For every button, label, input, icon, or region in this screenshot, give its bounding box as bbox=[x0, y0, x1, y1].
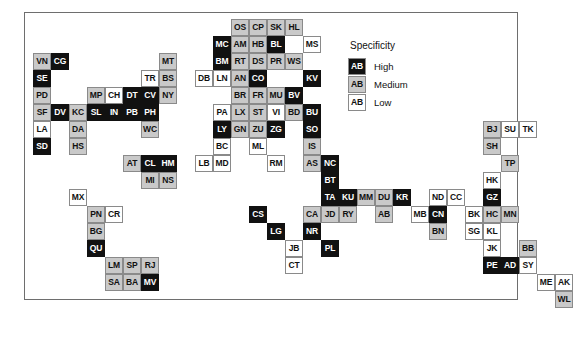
tile-ns[interactable]: NS bbox=[159, 172, 177, 189]
tile-mv[interactable]: MV bbox=[141, 274, 159, 291]
tile-db[interactable]: DB bbox=[195, 70, 213, 87]
tile-rm[interactable]: RM bbox=[267, 155, 285, 172]
tile-ln[interactable]: LN bbox=[213, 70, 231, 87]
tile-ly[interactable]: LY bbox=[213, 121, 231, 138]
tile-cv[interactable]: CV bbox=[141, 87, 159, 104]
tile-pa[interactable]: PA bbox=[213, 104, 231, 121]
tile-pd[interactable]: PD bbox=[33, 87, 51, 104]
tile-ml[interactable]: ML bbox=[249, 138, 267, 155]
tile-pl[interactable]: PL bbox=[321, 240, 339, 257]
tile-sy[interactable]: SY bbox=[519, 257, 537, 274]
tile-sd[interactable]: SD bbox=[33, 138, 51, 155]
tile-tp[interactable]: TP bbox=[501, 155, 519, 172]
tile-cs[interactable]: CS bbox=[249, 206, 267, 223]
tile-bb[interactable]: BB bbox=[519, 240, 537, 257]
tile-sh[interactable]: SH bbox=[483, 138, 501, 155]
tile-pe[interactable]: PE bbox=[483, 257, 501, 274]
tile-bs[interactable]: BS bbox=[159, 70, 177, 87]
tile-jb[interactable]: JB bbox=[285, 240, 303, 257]
tile-bc[interactable]: BC bbox=[213, 138, 231, 155]
tile-se[interactable]: SE bbox=[33, 70, 51, 87]
tile-ct[interactable]: CT bbox=[285, 257, 303, 274]
tile-kc[interactable]: KC bbox=[69, 104, 87, 121]
tile-bn[interactable]: BN bbox=[429, 223, 447, 240]
tile-fr[interactable]: FR bbox=[249, 87, 267, 104]
tile-jk[interactable]: JK bbox=[483, 240, 501, 257]
tile-nr[interactable]: NR bbox=[303, 223, 321, 240]
tile-an[interactable]: AN bbox=[231, 70, 249, 87]
tile-sk[interactable]: SK bbox=[267, 19, 285, 36]
tile-cn[interactable]: CN bbox=[429, 206, 447, 223]
tile-bl[interactable]: BL bbox=[267, 36, 285, 53]
tile-mp[interactable]: MP bbox=[87, 87, 105, 104]
tile-gn[interactable]: GN bbox=[231, 121, 249, 138]
tile-qu[interactable]: QU bbox=[87, 240, 105, 257]
tile-me[interactable]: ME bbox=[537, 274, 555, 291]
tile-cc[interactable]: CC bbox=[447, 189, 465, 206]
tile-br[interactable]: BR bbox=[231, 87, 249, 104]
tile-ms[interactable]: MS bbox=[303, 36, 321, 53]
tile-md[interactable]: MD bbox=[213, 155, 231, 172]
tile-ch[interactable]: CH bbox=[105, 87, 123, 104]
tile-bm[interactable]: BM bbox=[213, 53, 231, 70]
tile-wl[interactable]: WL bbox=[555, 291, 573, 308]
tile-mb[interactable]: MB bbox=[411, 206, 429, 223]
tile-mc[interactable]: MC bbox=[213, 36, 231, 53]
tile-os[interactable]: OS bbox=[231, 19, 249, 36]
tile-wc[interactable]: WC bbox=[141, 121, 159, 138]
tile-vn[interactable]: VN bbox=[33, 53, 51, 70]
tile-sp[interactable]: SP bbox=[123, 257, 141, 274]
tile-st[interactable]: ST bbox=[249, 104, 267, 121]
tile-ph[interactable]: PH bbox=[141, 104, 159, 121]
tile-hc[interactable]: HC bbox=[483, 206, 501, 223]
tile-ab[interactable]: AB bbox=[375, 206, 393, 223]
tile-sf[interactable]: SF bbox=[33, 104, 51, 121]
tile-vi[interactable]: VI bbox=[267, 104, 285, 121]
tile-cg[interactable]: CG bbox=[51, 53, 69, 70]
tile-pn[interactable]: PN bbox=[87, 206, 105, 223]
tile-sl[interactable]: SL bbox=[87, 104, 105, 121]
tile-sg[interactable]: SG bbox=[465, 223, 483, 240]
tile-mm[interactable]: MM bbox=[357, 189, 375, 206]
tile-ry[interactable]: RY bbox=[339, 206, 357, 223]
tile-at[interactable]: AT bbox=[123, 155, 141, 172]
tile-mt[interactable]: MT bbox=[159, 53, 177, 70]
tile-rj[interactable]: RJ bbox=[141, 257, 159, 274]
tile-ca[interactable]: CA bbox=[303, 206, 321, 223]
tile-su[interactable]: SU bbox=[501, 121, 519, 138]
tile-hm[interactable]: HM bbox=[159, 155, 177, 172]
tile-la[interactable]: LA bbox=[33, 121, 51, 138]
tile-ad[interactable]: AD bbox=[501, 257, 519, 274]
tile-ws[interactable]: WS bbox=[285, 53, 303, 70]
tile-kv[interactable]: KV bbox=[303, 70, 321, 87]
tile-hb[interactable]: HB bbox=[249, 36, 267, 53]
tile-kr[interactable]: KR bbox=[393, 189, 411, 206]
tile-hl[interactable]: HL bbox=[285, 19, 303, 36]
tile-lg[interactable]: LG bbox=[267, 223, 285, 240]
tile-dt[interactable]: DT bbox=[123, 87, 141, 104]
tile-lm[interactable]: LM bbox=[105, 257, 123, 274]
tile-dv[interactable]: DV bbox=[51, 104, 69, 121]
tile-da[interactable]: DA bbox=[69, 121, 87, 138]
tile-tk[interactable]: TK bbox=[519, 121, 537, 138]
tile-bv[interactable]: BV bbox=[285, 87, 303, 104]
tile-bu[interactable]: BU bbox=[303, 104, 321, 121]
tile-kl[interactable]: KL bbox=[483, 223, 501, 240]
tile-mx[interactable]: MX bbox=[69, 189, 87, 206]
tile-bd[interactable]: BD bbox=[285, 104, 303, 121]
tile-lx[interactable]: LX bbox=[231, 104, 249, 121]
tile-du[interactable]: DU bbox=[375, 189, 393, 206]
tile-co[interactable]: CO bbox=[249, 70, 267, 87]
tile-ku[interactable]: KU bbox=[339, 189, 357, 206]
tile-lb[interactable]: LB bbox=[195, 155, 213, 172]
tile-ny[interactable]: NY bbox=[159, 87, 177, 104]
tile-rt[interactable]: RT bbox=[231, 53, 249, 70]
tile-nc[interactable]: NC bbox=[321, 155, 339, 172]
tile-as[interactable]: AS bbox=[303, 155, 321, 172]
tile-nd[interactable]: ND bbox=[429, 189, 447, 206]
tile-tr[interactable]: TR bbox=[141, 70, 159, 87]
tile-ak[interactable]: AK bbox=[555, 274, 573, 291]
tile-zg[interactable]: ZG bbox=[267, 121, 285, 138]
tile-in[interactable]: IN bbox=[105, 104, 123, 121]
tile-bg[interactable]: BG bbox=[87, 223, 105, 240]
